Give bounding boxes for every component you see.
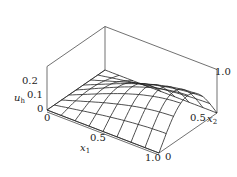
y-axis-label: x2 xyxy=(207,114,217,126)
x-axis-label: x1 xyxy=(80,143,90,155)
bounding-box xyxy=(47,27,217,156)
x-tick-0.5: 0.5 xyxy=(90,133,106,143)
y-tick-0.5: 0.5 xyxy=(190,113,206,123)
y-tick-0: 0 xyxy=(165,152,171,162)
y-tick-1.0: 1.0 xyxy=(215,67,231,77)
z-tick-0.2: 0.2 xyxy=(22,76,38,86)
z-tick-0: 0 xyxy=(37,104,43,114)
x-tick-0: 0 xyxy=(44,113,50,123)
z-tick-0.1: 0.1 xyxy=(27,90,43,100)
x-tick-1.0: 1.0 xyxy=(145,153,161,163)
z-axis-label: uh xyxy=(14,93,25,105)
